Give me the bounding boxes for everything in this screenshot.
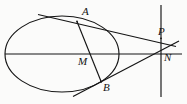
point-label-m: M [78,56,87,67]
point-label-p: P [158,26,165,37]
chord-segment-ab [77,22,102,83]
geometry-figure: A B M P N [0,0,187,104]
point-a-marker [76,21,78,23]
secant-line-b-to-p [73,41,179,97]
tangent-line-through-a-to-p [38,15,176,47]
point-p-marker [160,37,162,39]
geometry-canvas [0,0,187,104]
point-label-b: B [103,82,110,93]
point-b-marker [100,81,102,83]
point-label-n: N [164,52,171,63]
point-label-a: A [82,6,89,17]
